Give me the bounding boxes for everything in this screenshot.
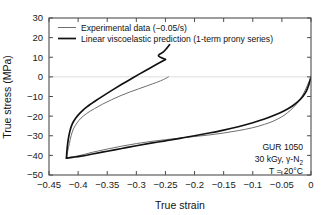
x-tick-label: −0.45 bbox=[37, 179, 61, 190]
annotation-line-temperature: T = 20°C bbox=[269, 166, 303, 176]
annotation-dose-subscript: 2 bbox=[299, 159, 303, 166]
curve-experimental-unloading bbox=[66, 77, 168, 158]
annotation-dose-prefix: 30 kGy, bbox=[255, 154, 286, 164]
x-tick-label: −0.05 bbox=[270, 179, 294, 190]
y-tick-label: −50 bbox=[27, 169, 43, 180]
plot-svg: −0.45−0.4−0.35−0.3−0.25−0.2−0.15−0.1−0.0… bbox=[0, 0, 326, 215]
x-axis-title: True strain bbox=[155, 199, 205, 211]
legend-label-prediction: Linear viscoelastic prediction (1-term p… bbox=[81, 34, 273, 44]
y-tick-label: −30 bbox=[27, 130, 43, 141]
x-tick-label: −0.15 bbox=[212, 179, 236, 190]
y-tick-label: −40 bbox=[27, 150, 43, 161]
x-tick-label: −0.2 bbox=[185, 179, 204, 190]
y-tick-label: 20 bbox=[32, 32, 43, 43]
annotation-line-dose: 30 kGy, γ-N2 bbox=[255, 154, 304, 166]
y-tick-label: −20 bbox=[27, 111, 43, 122]
y-tick-label: 30 bbox=[32, 12, 43, 23]
x-tick-label: 0 bbox=[308, 179, 313, 190]
x-tick-label: −0.4 bbox=[69, 179, 88, 190]
y-tick-label: 0 bbox=[38, 71, 43, 82]
x-tick-label: −0.1 bbox=[243, 179, 262, 190]
legend-label-experimental: Experimental data (−0.05/s) bbox=[81, 23, 187, 33]
annotation-line-material: GUR 1050 bbox=[262, 142, 303, 152]
annotation-dose-symbol: γ-N bbox=[286, 154, 299, 164]
y-tick-label: 10 bbox=[32, 52, 43, 63]
sample-annotation: GUR 1050 30 kGy, γ-N2 T = 20°C bbox=[255, 142, 304, 176]
chart-figure: −0.45−0.4−0.35−0.3−0.25−0.2−0.15−0.1−0.0… bbox=[0, 0, 326, 215]
y-axis-title: True stress (MPa) bbox=[1, 55, 13, 139]
x-tick-label: −0.25 bbox=[153, 179, 177, 190]
x-tick-label: −0.3 bbox=[127, 179, 146, 190]
legend: Experimental data (−0.05/s) Linear visco… bbox=[58, 23, 273, 44]
x-tick-label: −0.35 bbox=[95, 179, 119, 190]
y-tick-label: −10 bbox=[27, 91, 43, 102]
curve-prediction-unloading-tail bbox=[158, 45, 169, 60]
